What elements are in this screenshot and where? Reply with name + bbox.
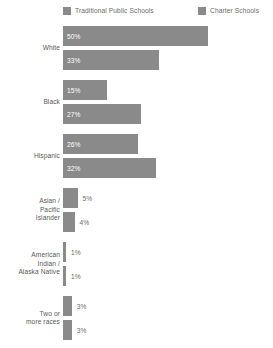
bar-value-label: 26% xyxy=(67,141,81,148)
bar[interactable] xyxy=(63,266,66,286)
bar[interactable]: 26% xyxy=(63,134,138,154)
bar-row: 5% xyxy=(63,188,92,208)
category-label-line: Islander xyxy=(0,214,60,222)
bar[interactable]: 50% xyxy=(63,26,208,46)
bar-value-label: 50% xyxy=(67,33,81,40)
legend-item-charter-schools[interactable]: Charter Schools xyxy=(198,6,259,15)
bar-row: 50% xyxy=(63,26,208,46)
bar[interactable]: 32% xyxy=(63,158,156,178)
category-label: White xyxy=(0,44,60,52)
bar-row: 1% xyxy=(63,242,81,262)
bar-row: 26% xyxy=(63,134,138,154)
bar[interactable]: 33% xyxy=(63,50,159,70)
bar-row: 3% xyxy=(63,296,86,316)
category-label-line: Indian / xyxy=(0,260,60,268)
bar-value-label: 15% xyxy=(67,87,81,94)
bar[interactable]: 15% xyxy=(63,80,107,100)
category-label: Two ormore races xyxy=(0,310,60,327)
bar-row: 1% xyxy=(63,266,81,286)
bar[interactable] xyxy=(63,212,75,232)
category-label: Black xyxy=(0,98,60,106)
bar-value-label: 3% xyxy=(77,327,87,334)
bar-group: Hispanic26%32% xyxy=(0,134,273,178)
category-label-line: Black xyxy=(0,98,60,106)
bar-value-label: 1% xyxy=(71,273,81,280)
bar[interactable] xyxy=(63,188,78,208)
bar-group: Asian /PacificIslander5%4% xyxy=(0,188,273,232)
bar[interactable]: 27% xyxy=(63,104,141,124)
bar-value-label: 5% xyxy=(83,195,93,202)
category-label: AmericanIndian /Alaska Native xyxy=(0,251,60,276)
bar-row: 32% xyxy=(63,158,156,178)
legend-item-traditional-public-schools[interactable]: Traditional Public Schools xyxy=(63,6,154,15)
square-swatch-icon xyxy=(198,7,206,15)
bar[interactable] xyxy=(63,320,72,340)
bar-value-label: 27% xyxy=(67,111,81,118)
category-label-line: Asian / xyxy=(0,197,60,205)
square-swatch-icon xyxy=(63,7,71,15)
bar[interactable] xyxy=(63,296,72,316)
legend-item-label: Charter Schools xyxy=(210,6,259,15)
bar-row: 4% xyxy=(63,212,89,232)
bar-row: 15% xyxy=(63,80,107,100)
bar-value-label: 1% xyxy=(71,249,81,256)
plot-area: White50%33%Black15%27%Hispanic26%32%Asia… xyxy=(0,26,273,348)
category-label-line: White xyxy=(0,44,60,52)
bar-value-label: 32% xyxy=(67,165,81,172)
bar-value-label: 33% xyxy=(67,57,81,64)
bar-row: 33% xyxy=(63,50,159,70)
category-label-line: Alaska Native xyxy=(0,268,60,276)
bar-row: 3% xyxy=(63,320,86,340)
category-label-line: Two or xyxy=(0,310,60,318)
category-label-line: Pacific xyxy=(0,206,60,214)
bar-value-label: 3% xyxy=(77,303,87,310)
category-label-line: Hispanic xyxy=(0,152,60,160)
bar-chart: Traditional Public Schools Charter Schoo… xyxy=(0,0,273,348)
chart-legend: Traditional Public Schools Charter Schoo… xyxy=(0,6,273,22)
bar-row: 27% xyxy=(63,104,141,124)
category-label-line: American xyxy=(0,251,60,259)
bar-value-label: 4% xyxy=(80,219,90,226)
bar-group: Two ormore races3%3% xyxy=(0,296,273,340)
bar-group: Black15%27% xyxy=(0,80,273,124)
category-label: Asian /PacificIslander xyxy=(0,197,60,222)
bar[interactable] xyxy=(63,242,66,262)
category-label-line: more races xyxy=(0,318,60,326)
bar-group: AmericanIndian /Alaska Native1%1% xyxy=(0,242,273,286)
bar-group: White50%33% xyxy=(0,26,273,70)
category-label: Hispanic xyxy=(0,152,60,160)
legend-item-label: Traditional Public Schools xyxy=(75,6,154,15)
